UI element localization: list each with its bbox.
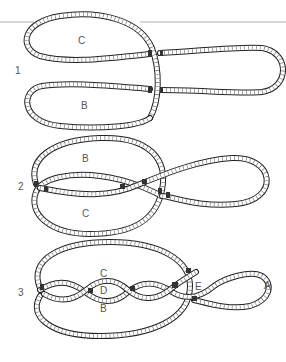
step-3-label-bottom: B <box>100 303 107 314</box>
step-1-figure: 1 C B <box>15 14 283 127</box>
step-2-figure: 2 B C <box>18 138 267 234</box>
step-3-number: 3 <box>18 287 24 298</box>
step-1-lower-loop <box>27 84 150 127</box>
step-1-label-upper: C <box>78 35 85 46</box>
step-2-number: 2 <box>18 181 24 192</box>
knot-diagram: 1 C B 2 B C <box>0 0 286 362</box>
step-1-upper-loop <box>27 14 158 118</box>
step-1-right-loop <box>160 48 283 93</box>
step-2-label-upper: B <box>82 153 89 164</box>
step-3-label-top: C <box>100 268 107 279</box>
step-3-label-crossing: E <box>195 281 202 292</box>
step-3-twisted-strand-1 <box>40 274 269 307</box>
step-1-number: 1 <box>15 65 21 76</box>
step-3-label-center: D <box>100 285 107 296</box>
step-3-label-right-loop: A <box>264 280 271 291</box>
step-1-label-lower: B <box>81 100 88 111</box>
step-2-right-loop <box>40 158 267 205</box>
step-2-big-loop <box>34 138 163 234</box>
step-3-figure: 3 C D B E A <box>18 242 271 336</box>
step-2-label-lower: C <box>82 208 89 219</box>
